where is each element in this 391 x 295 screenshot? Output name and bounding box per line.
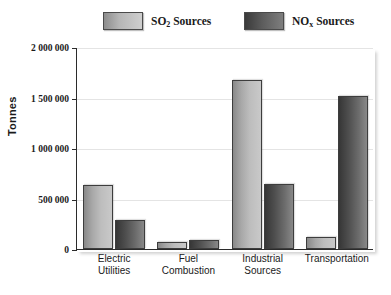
y-axis-tick-label: 1 500 000	[31, 94, 69, 104]
x-axis-label: Transportation	[300, 253, 374, 265]
emissions-bar-chart: SO2 Sources NOx Sources Tonnes 2 000 000…	[0, 0, 391, 295]
y-axis-tick	[72, 250, 77, 251]
x-axis-label: IndustrialSources	[226, 253, 300, 277]
y-axis-tick-label: 0	[64, 245, 69, 255]
chart-legend: SO2 Sources NOx Sources	[0, 12, 391, 36]
y-axis-tick-label: 500 000	[38, 195, 69, 205]
bar-group-container	[77, 48, 373, 249]
bar-so2[interactable]	[157, 242, 187, 249]
bar-nox[interactable]	[338, 96, 368, 249]
legend-item-so2[interactable]: SO2 Sources	[103, 12, 211, 30]
bar-nox[interactable]	[115, 220, 145, 249]
legend-label-so2: SO2 Sources	[151, 15, 211, 27]
bar-nox[interactable]	[189, 240, 219, 249]
legend-label-nox: NOx Sources	[292, 15, 354, 27]
legend-swatch-so2-icon	[103, 12, 143, 30]
legend-swatch-nox-icon	[244, 12, 284, 30]
bar-so2[interactable]	[83, 185, 113, 249]
x-axis-label: ElectricUtilities	[77, 253, 151, 277]
y-axis-tick-label: 2 000 000	[31, 43, 69, 53]
y-axis-tick-label: 1 000 000	[31, 144, 69, 154]
bar-nox[interactable]	[264, 184, 294, 249]
x-axis-label: FuelCombustion	[151, 253, 225, 277]
bar-so2[interactable]	[306, 237, 336, 249]
y-axis-title: Tonnes	[6, 97, 18, 137]
bar-so2[interactable]	[232, 80, 262, 249]
legend-item-nox[interactable]: NOx Sources	[244, 12, 354, 30]
plot-area: 2 000 0001 500 0001 000 000500 0000 Elec…	[76, 48, 373, 250]
